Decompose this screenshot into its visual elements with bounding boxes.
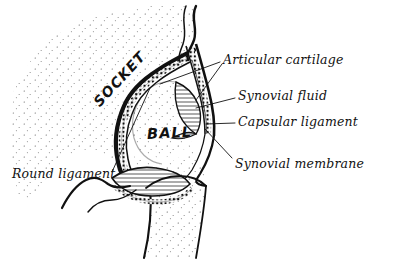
callout-capsular-ligament: Capsular ligament: [238, 114, 358, 129]
callout-round-ligament: Round ligament: [12, 166, 116, 181]
region-label-ball: BALL: [147, 124, 193, 142]
callout-synovial-fluid: Synovial fluid: [238, 88, 327, 103]
figure-canvas: SOCKET BALL Articular cartilage Synovial…: [0, 0, 399, 264]
callout-articular-cartilage: Articular cartilage: [223, 52, 344, 67]
callout-synovial-membrane: Synovial membrane: [235, 156, 364, 171]
hip-joint-diagram: [0, 0, 399, 264]
